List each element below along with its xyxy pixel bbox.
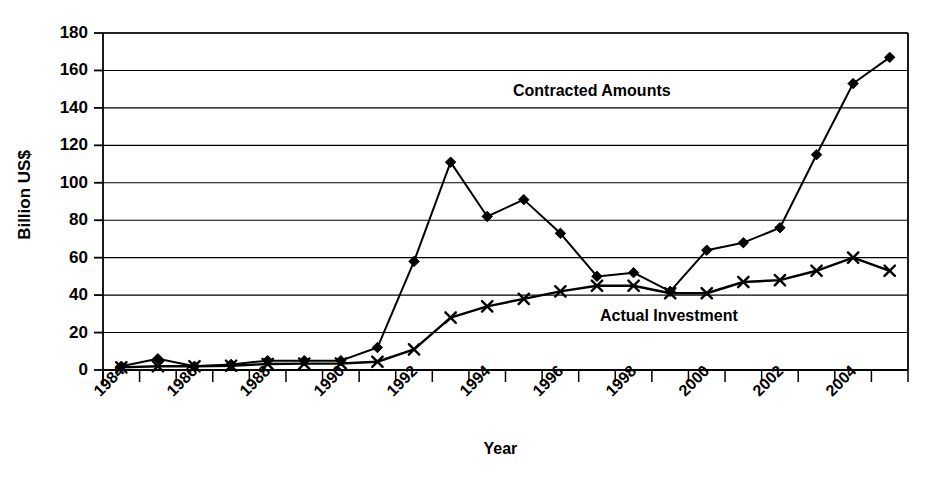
series-actual-investment <box>116 252 895 372</box>
data-point-marker <box>811 149 821 159</box>
y-tick-label: 180 <box>42 24 88 41</box>
y-tick-label: 100 <box>42 174 88 191</box>
y-tick-label: 60 <box>42 249 88 266</box>
chart-figure: Billion US$ 020406080100120140160180 198… <box>0 0 936 479</box>
data-point-marker <box>628 267 638 277</box>
y-tick-label: 80 <box>42 211 88 228</box>
y-tick-label: 160 <box>42 61 88 78</box>
y-tick-label: 140 <box>42 99 88 116</box>
y-axis-title-text: Billion US$ <box>15 150 35 240</box>
chart-plot-area <box>0 0 936 479</box>
y-tick-label: 0 <box>42 361 88 378</box>
x-axis-title: Year <box>484 440 518 458</box>
y-tick-label: 20 <box>42 324 88 341</box>
series-label-contracted-amounts: Contracted Amounts <box>513 82 671 100</box>
series-label-actual-investment: Actual Investment <box>600 307 738 325</box>
series-line <box>121 57 889 366</box>
data-point-marker <box>775 223 785 233</box>
y-tick-label: 120 <box>42 136 88 153</box>
y-tick-label: 40 <box>42 286 88 303</box>
data-point-marker <box>372 342 382 352</box>
series-contracted-amounts <box>116 52 895 371</box>
data-point-marker <box>738 237 748 247</box>
